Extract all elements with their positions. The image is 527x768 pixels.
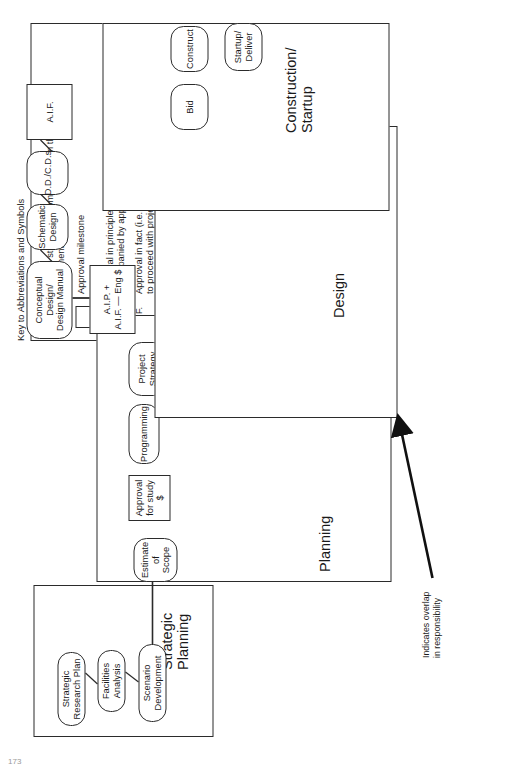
overlap-annotation: Indicates overlap in responsibility: [420, 591, 441, 658]
overlap-arrow-icon: [0, 0, 527, 768]
diagram-canvas: Key to Abbreviations and Symbols Process…: [0, 0, 527, 768]
page-number: 173: [8, 757, 21, 766]
